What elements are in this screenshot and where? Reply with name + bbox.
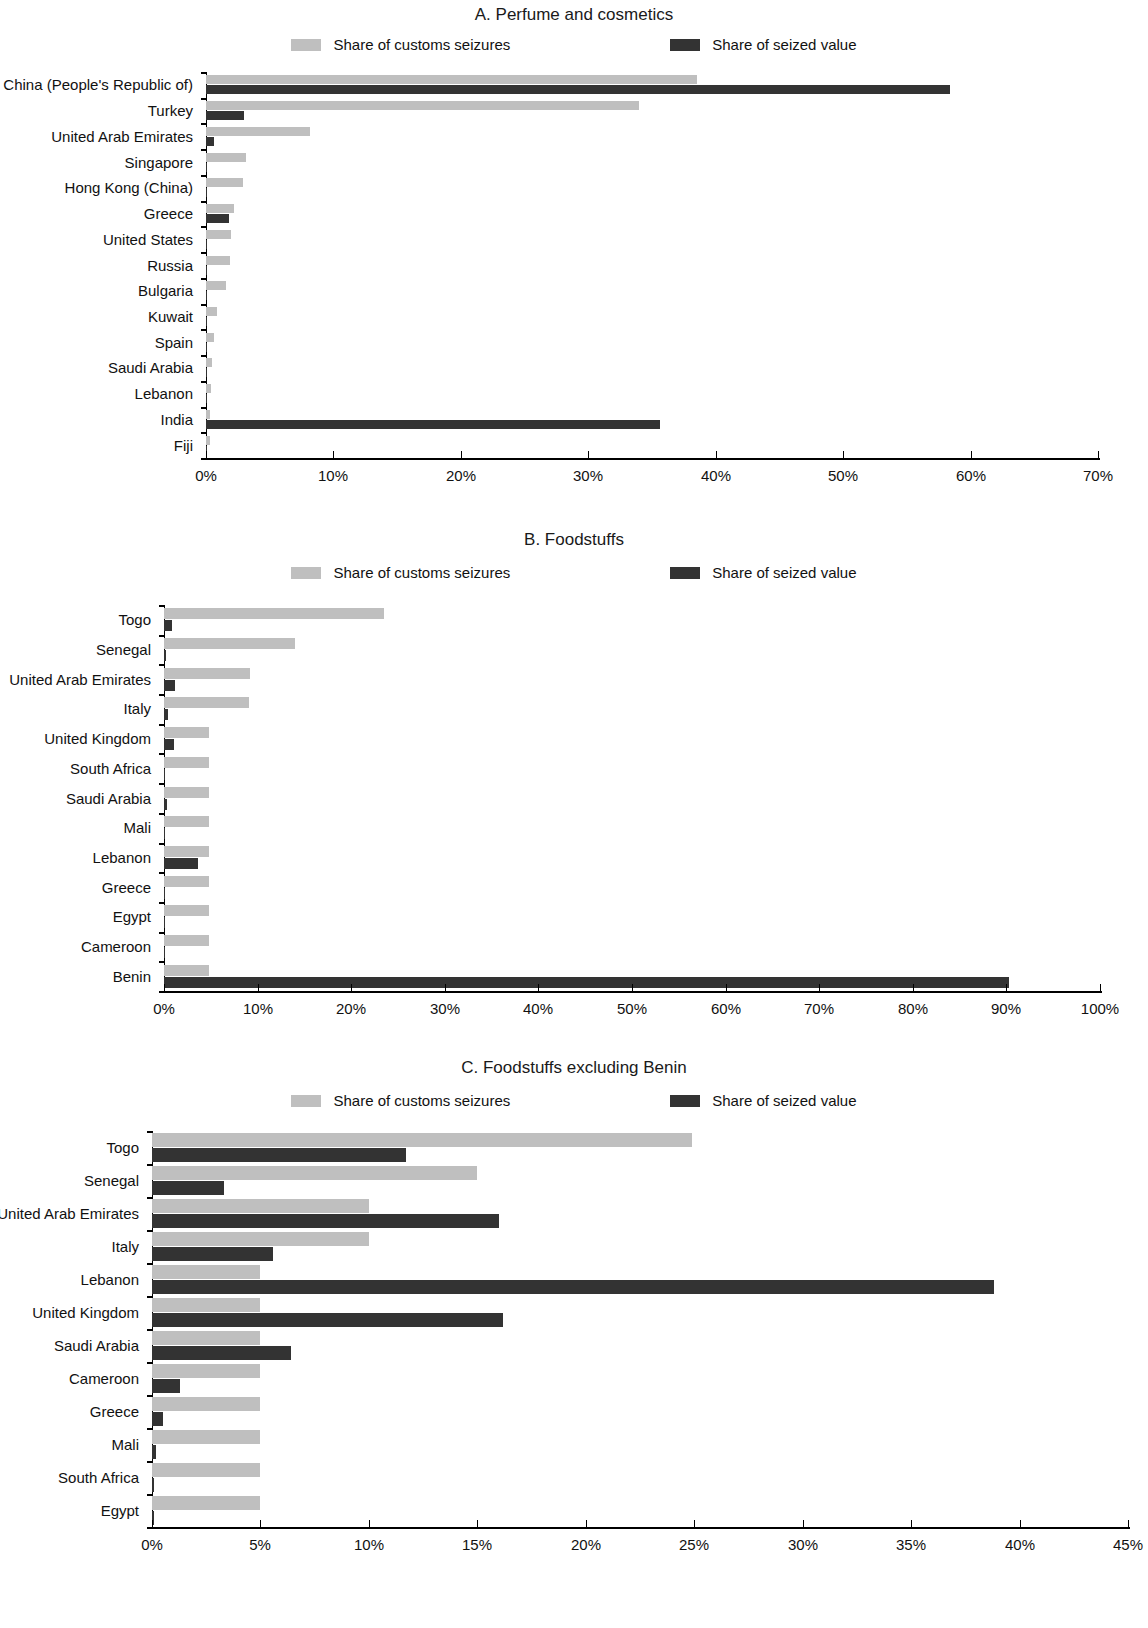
x-axis-tick-label: 0% (141, 1536, 163, 1553)
bar-share-of-customs-seizures (152, 1265, 260, 1279)
y-axis-tick (147, 1527, 152, 1529)
legend-entry-seizures: Share of customs seizures (291, 1092, 510, 1109)
x-axis-tick-label: 40% (701, 467, 731, 484)
x-axis-tick-label: 20% (571, 1536, 601, 1553)
x-axis-tick (694, 1520, 695, 1527)
category-label: Greece (0, 876, 158, 898)
bar-share-of-customs-seizures (206, 333, 214, 342)
x-axis-tick-label: 0% (195, 467, 217, 484)
bar-share-of-customs-seizures (152, 1430, 260, 1444)
x-axis-tick-label: 90% (991, 1000, 1021, 1017)
category-label: United States (0, 228, 200, 250)
legend-label-seizures: Share of customs seizures (333, 36, 510, 53)
x-axis-line (164, 991, 1102, 993)
bar-share-of-seized-value (164, 739, 174, 750)
bar-share-of-customs-seizures (164, 787, 209, 798)
category-label: Kuwait (0, 305, 200, 327)
y-axis-tick (159, 961, 164, 963)
bar-share-of-seized-value (206, 111, 244, 120)
bar-share-of-customs-seizures (152, 1298, 260, 1312)
category-label: Singapore (0, 151, 200, 173)
x-axis-tick (206, 451, 207, 458)
bar-share-of-customs-seizures (164, 638, 295, 649)
x-axis-tick (913, 984, 914, 991)
x-axis-tick-label: 60% (711, 1000, 741, 1017)
x-axis-tick (716, 451, 717, 458)
category-label: India (0, 408, 200, 430)
bar-share-of-customs-seizures (152, 1232, 369, 1246)
panel-c-title: C. Foodstuffs excluding Benin (0, 1050, 1148, 1078)
bar-share-of-customs-seizures (164, 965, 209, 976)
x-axis-tick-label: 20% (446, 467, 476, 484)
y-axis-tick (201, 381, 206, 383)
x-axis-tick-label: 40% (1005, 1536, 1035, 1553)
y-axis-tick (159, 664, 164, 666)
category-label: Cameroon (0, 1368, 146, 1390)
category-label: South Africa (0, 757, 158, 779)
x-axis-tick (586, 1520, 587, 1527)
bar-share-of-customs-seizures (152, 1364, 260, 1378)
category-label: South Africa (0, 1467, 146, 1489)
bar-share-of-customs-seizures (164, 757, 209, 768)
bar-share-of-seized-value (164, 650, 166, 661)
category-label: United Arab Emirates (0, 668, 158, 690)
legend-swatch-value-icon (670, 567, 700, 579)
x-axis-tick (843, 451, 844, 458)
x-axis-tick (588, 451, 589, 458)
category-label: United Kingdom (0, 728, 158, 750)
y-axis-tick (159, 724, 164, 726)
x-axis-line (206, 458, 1100, 460)
y-axis-tick (159, 605, 164, 607)
bar-share-of-seized-value (152, 1148, 406, 1162)
y-axis-tick (201, 98, 206, 100)
y-axis-tick (201, 329, 206, 331)
bar-share-of-seized-value (164, 799, 167, 810)
x-axis-tick-label: 100% (1081, 1000, 1119, 1017)
bar-share-of-customs-seizures (164, 846, 209, 857)
bar-share-of-customs-seizures (206, 230, 231, 239)
category-label: Benin (0, 965, 158, 987)
bar-share-of-customs-seizures (206, 75, 697, 84)
x-axis-tick (260, 1520, 261, 1527)
bar-share-of-customs-seizures (206, 204, 234, 213)
bar-share-of-seized-value (164, 888, 165, 899)
category-label: Greece (0, 1401, 146, 1423)
category-label: Fiji (0, 434, 200, 456)
panel-a-title: A. Perfume and cosmetics (0, 0, 1148, 25)
category-label: Senegal (0, 1170, 146, 1192)
category-label: Lebanon (0, 1269, 146, 1291)
y-axis-tick (159, 932, 164, 934)
x-axis-tick (1098, 451, 1099, 458)
y-axis-tick (159, 783, 164, 785)
bar-share-of-seized-value (152, 1346, 291, 1360)
legend-entry-seizures: Share of customs seizures (291, 564, 510, 581)
x-axis-tick-label: 10% (354, 1536, 384, 1553)
x-axis-tick-label: 10% (318, 467, 348, 484)
y-axis-tick (159, 753, 164, 755)
bar-share-of-seized-value (206, 368, 207, 377)
category-label: Turkey (0, 100, 200, 122)
legend-label-seizures: Share of customs seizures (333, 1092, 510, 1109)
bar-share-of-customs-seizures (164, 905, 209, 916)
x-axis-tick (1128, 1520, 1129, 1527)
bar-share-of-customs-seizures (164, 697, 249, 708)
bar-share-of-seized-value (206, 85, 950, 94)
bar-share-of-seized-value (152, 1313, 503, 1327)
bar-share-of-seized-value (164, 680, 175, 691)
bar-share-of-customs-seizures (206, 153, 246, 162)
panel-b-plot: TogoSenegalUnited Arab EmiratesItalyUnit… (0, 603, 1148, 1033)
category-label: China (People's Republic of) (0, 74, 200, 96)
bar-share-of-customs-seizures (164, 876, 209, 887)
legend-entry-value: Share of seized value (670, 1092, 856, 1109)
category-label: Egypt (0, 906, 158, 928)
category-label: Lebanon (0, 383, 200, 405)
y-axis-tick (201, 252, 206, 254)
bar-share-of-customs-seizures (206, 281, 226, 290)
x-axis-tick (351, 984, 352, 991)
bar-share-of-seized-value (206, 137, 214, 146)
category-label: Saudi Arabia (0, 357, 200, 379)
category-label: Saudi Arabia (0, 1335, 146, 1357)
bar-share-of-customs-seizures (206, 307, 217, 316)
panel-b-title: B. Foodstuffs (0, 520, 1148, 550)
bar-share-of-seized-value (206, 420, 660, 429)
